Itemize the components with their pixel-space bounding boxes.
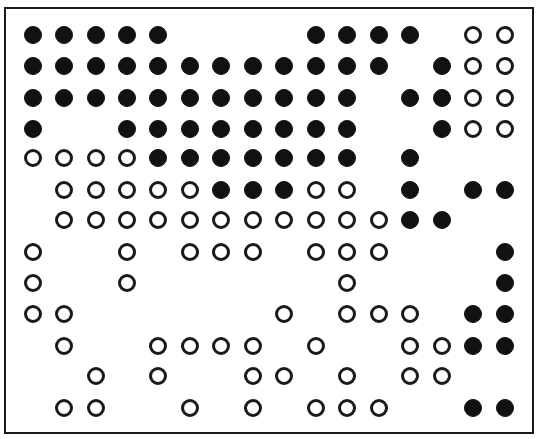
filled-circle-icon xyxy=(464,305,482,323)
filled-circle-icon xyxy=(401,181,419,199)
open-circle-icon xyxy=(87,211,105,229)
open-circle-icon xyxy=(464,89,482,107)
filled-circle-icon xyxy=(212,57,230,75)
open-circle-icon xyxy=(338,305,356,323)
open-circle-icon xyxy=(433,367,451,385)
filled-circle-icon xyxy=(275,120,293,138)
open-circle-icon xyxy=(24,274,42,292)
filled-circle-icon xyxy=(24,120,42,138)
open-circle-icon xyxy=(496,57,514,75)
filled-circle-icon xyxy=(338,120,356,138)
open-circle-icon xyxy=(338,274,356,292)
filled-circle-icon xyxy=(55,57,73,75)
open-circle-icon xyxy=(307,399,325,417)
open-circle-icon xyxy=(307,337,325,355)
open-circle-icon xyxy=(118,181,136,199)
filled-circle-icon xyxy=(401,26,419,44)
open-circle-icon xyxy=(496,120,514,138)
open-circle-icon xyxy=(149,337,167,355)
open-circle-icon xyxy=(307,211,325,229)
open-circle-icon xyxy=(464,26,482,44)
filled-circle-icon xyxy=(149,26,167,44)
open-circle-icon xyxy=(149,367,167,385)
filled-circle-icon xyxy=(496,243,514,261)
open-circle-icon xyxy=(338,211,356,229)
open-circle-icon xyxy=(55,399,73,417)
filled-circle-icon xyxy=(464,181,482,199)
open-circle-icon xyxy=(244,367,262,385)
filled-circle-icon xyxy=(244,57,262,75)
filled-circle-icon xyxy=(244,181,262,199)
filled-circle-icon xyxy=(212,120,230,138)
filled-circle-icon xyxy=(244,89,262,107)
open-circle-icon xyxy=(464,120,482,138)
filled-circle-icon xyxy=(118,89,136,107)
open-circle-icon xyxy=(181,211,199,229)
open-circle-icon xyxy=(338,367,356,385)
filled-circle-icon xyxy=(433,120,451,138)
filled-circle-icon xyxy=(370,26,388,44)
open-circle-icon xyxy=(464,57,482,75)
open-circle-icon xyxy=(24,149,42,167)
filled-circle-icon xyxy=(87,57,105,75)
filled-circle-icon xyxy=(212,149,230,167)
open-circle-icon xyxy=(118,149,136,167)
filled-circle-icon xyxy=(401,211,419,229)
open-circle-icon xyxy=(118,274,136,292)
filled-circle-icon xyxy=(338,149,356,167)
open-circle-icon xyxy=(370,243,388,261)
open-circle-icon xyxy=(401,305,419,323)
filled-circle-icon xyxy=(212,89,230,107)
open-circle-icon xyxy=(149,211,167,229)
filled-circle-icon xyxy=(55,26,73,44)
filled-circle-icon xyxy=(181,57,199,75)
open-circle-icon xyxy=(370,211,388,229)
filled-circle-icon xyxy=(149,149,167,167)
filled-circle-icon xyxy=(244,120,262,138)
open-circle-icon xyxy=(118,243,136,261)
filled-circle-icon xyxy=(181,149,199,167)
open-circle-icon xyxy=(244,337,262,355)
open-circle-icon xyxy=(338,243,356,261)
filled-circle-icon xyxy=(55,89,73,107)
open-circle-icon xyxy=(181,337,199,355)
open-circle-icon xyxy=(87,149,105,167)
open-circle-icon xyxy=(55,181,73,199)
filled-circle-icon xyxy=(24,26,42,44)
open-circle-icon xyxy=(149,181,167,199)
filled-circle-icon xyxy=(433,211,451,229)
open-circle-icon xyxy=(433,337,451,355)
filled-circle-icon xyxy=(464,399,482,417)
open-circle-icon xyxy=(275,211,293,229)
open-circle-icon xyxy=(496,26,514,44)
filled-circle-icon xyxy=(244,149,262,167)
open-circle-icon xyxy=(338,181,356,199)
open-circle-icon xyxy=(24,305,42,323)
open-circle-icon xyxy=(181,243,199,261)
open-circle-icon xyxy=(338,399,356,417)
filled-circle-icon xyxy=(496,305,514,323)
open-circle-icon xyxy=(118,211,136,229)
filled-circle-icon xyxy=(275,57,293,75)
open-circle-icon xyxy=(87,399,105,417)
filled-circle-icon xyxy=(307,26,325,44)
open-circle-icon xyxy=(401,337,419,355)
filled-circle-icon xyxy=(212,181,230,199)
filled-circle-icon xyxy=(464,337,482,355)
filled-circle-icon xyxy=(338,89,356,107)
open-circle-icon xyxy=(370,399,388,417)
filled-circle-icon xyxy=(149,57,167,75)
grid-border-frame xyxy=(4,7,534,434)
open-circle-icon xyxy=(244,399,262,417)
filled-circle-icon xyxy=(496,181,514,199)
filled-circle-icon xyxy=(307,89,325,107)
filled-circle-icon xyxy=(181,120,199,138)
filled-circle-icon xyxy=(433,57,451,75)
open-circle-icon xyxy=(87,181,105,199)
open-circle-icon xyxy=(181,399,199,417)
filled-circle-icon xyxy=(275,89,293,107)
filled-circle-icon xyxy=(307,57,325,75)
filled-circle-icon xyxy=(149,120,167,138)
open-circle-icon xyxy=(275,305,293,323)
filled-circle-icon xyxy=(401,89,419,107)
